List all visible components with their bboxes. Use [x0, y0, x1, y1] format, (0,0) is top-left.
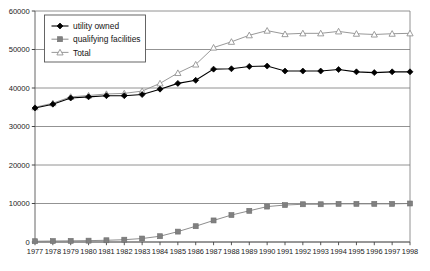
data-point-square-marker: [140, 236, 145, 241]
data-point-square-marker: [158, 234, 163, 239]
x-axis-tick-label: 1985: [170, 247, 186, 256]
legend-label: utility owned: [73, 21, 119, 31]
x-axis-tick-labels: 1977197819791980198119821983198419851986…: [27, 242, 418, 256]
x-axis-tick-label: 1983: [134, 247, 150, 256]
x-axis-tick-label: 1995: [348, 247, 364, 256]
x-axis-tick-label: 1982: [116, 247, 132, 256]
legend-square-marker: [58, 37, 63, 42]
x-axis-tick-label: 1980: [80, 247, 96, 256]
y-axis-tick-labels: 0100002000030000400005000060000: [9, 7, 35, 247]
x-axis-tick-label: 1994: [330, 247, 346, 256]
x-axis-tick-label: 1997: [384, 247, 400, 256]
x-axis-tick-label: 1979: [62, 247, 78, 256]
x-axis-tick-label: 1981: [98, 247, 114, 256]
data-point-square-marker: [229, 213, 234, 218]
y-axis-tick-label: 60000: [9, 7, 30, 16]
y-axis-tick-label: 40000: [9, 84, 30, 93]
x-axis-tick-label: 1992: [295, 247, 311, 256]
x-axis-tick-label: 1984: [152, 247, 168, 256]
data-point-square-marker: [372, 201, 377, 206]
y-axis-tick-label: 0: [26, 238, 30, 247]
data-point-square-marker: [408, 201, 413, 206]
x-axis-tick-label: 1991: [277, 247, 293, 256]
data-point-square-marker: [68, 238, 73, 243]
x-axis-tick-label: 1990: [259, 247, 275, 256]
data-point-square-marker: [104, 238, 109, 243]
x-axis-tick-label: 1986: [187, 247, 203, 256]
x-axis-tick-label: 1996: [366, 247, 382, 256]
data-point-square-marker: [193, 224, 198, 229]
data-point-square-marker: [300, 202, 305, 207]
y-axis-tick-label: 10000: [9, 199, 30, 208]
x-axis-tick-label: 1988: [223, 247, 239, 256]
x-axis-tick-label: 1977: [27, 247, 43, 256]
x-axis-tick-label: 1978: [45, 247, 61, 256]
data-point-square-marker: [247, 208, 252, 213]
x-axis-tick-label: 1993: [312, 247, 328, 256]
data-point-square-marker: [336, 201, 341, 206]
y-axis-tick-label: 50000: [9, 45, 30, 54]
x-axis-tick-label: 1987: [205, 247, 221, 256]
x-axis-tick-label: 1989: [241, 247, 257, 256]
chart-container: 0100002000030000400005000060000 19771978…: [0, 0, 430, 271]
data-point-square-marker: [122, 237, 127, 242]
line-chart: 0100002000030000400005000060000 19771978…: [0, 0, 430, 271]
data-point-square-marker: [354, 201, 359, 206]
y-axis-tick-label: 20000: [9, 161, 30, 170]
x-axis-tick-label: 1998: [402, 247, 418, 256]
legend-label: qualifying facilities: [73, 34, 141, 44]
data-point-square-marker: [33, 239, 38, 244]
legend-label: Total: [73, 48, 91, 58]
data-point-square-marker: [86, 238, 91, 243]
y-axis-tick-label: 30000: [9, 122, 30, 131]
data-point-square-marker: [318, 202, 323, 207]
chart-legend: utility ownedqualifying facilitiesTotal: [45, 15, 146, 62]
data-point-square-marker: [390, 201, 395, 206]
data-point-square-marker: [265, 204, 270, 209]
data-point-square-marker: [283, 203, 288, 208]
data-point-square-marker: [50, 239, 55, 244]
data-point-square-marker: [175, 229, 180, 234]
data-point-square-marker: [211, 218, 216, 223]
